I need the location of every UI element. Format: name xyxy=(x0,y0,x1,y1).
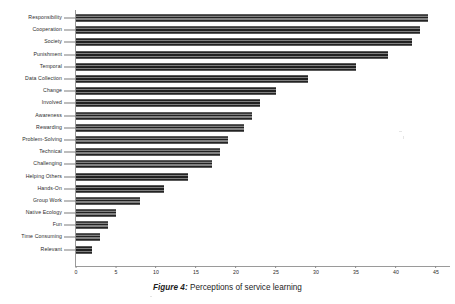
category-label: Challenging xyxy=(33,162,62,167)
category-label: Fun xyxy=(53,223,62,228)
category-label: Problem-Solving xyxy=(22,137,62,142)
bar-row: Group Work xyxy=(76,195,436,207)
category-tick-mark xyxy=(64,237,76,238)
category-tick-mark xyxy=(64,188,76,189)
category-label: Native Ecology xyxy=(26,210,62,215)
bar xyxy=(76,197,140,204)
tick-mark xyxy=(236,266,237,268)
category-label: Helping Others xyxy=(26,174,62,179)
category-tick-mark xyxy=(64,164,76,165)
value-axis-tick: 5 xyxy=(115,266,118,275)
value-axis-tick: 25 xyxy=(273,266,279,275)
bar-row: Fun xyxy=(76,219,436,231)
figure-caption: Figure 4: Perceptions of service learnin… xyxy=(0,283,455,292)
tick-label: 40 xyxy=(393,270,399,275)
bar xyxy=(76,234,100,241)
bar xyxy=(76,222,108,229)
bar xyxy=(76,246,92,253)
value-axis-tick: 10 xyxy=(153,266,159,275)
tick-mark xyxy=(196,266,197,268)
value-axis-tick: 30 xyxy=(313,266,319,275)
category-label: Cooperation xyxy=(32,28,62,33)
bar-row: Native Ecology xyxy=(76,207,436,219)
chart-plot-area: ResponsibilityCooperationSocietyPunishme… xyxy=(0,0,455,270)
bar xyxy=(76,136,228,143)
value-axis-tick: 45 xyxy=(433,266,439,275)
bar xyxy=(76,112,252,119)
tick-mark xyxy=(115,266,116,268)
bar xyxy=(76,210,116,217)
scan-speckle xyxy=(399,131,402,132)
scan-speckle xyxy=(150,296,152,297)
bar-row: Helping Others xyxy=(76,170,436,182)
category-tick-mark xyxy=(64,213,76,214)
figure-container: ResponsibilityCooperationSocietyPunishme… xyxy=(0,0,455,304)
bar xyxy=(76,63,356,70)
category-tick-mark xyxy=(64,249,76,250)
bar-row: Hands-On xyxy=(76,183,436,195)
bar xyxy=(76,149,220,156)
tick-label: 10 xyxy=(153,270,159,275)
bar-row: Punishment xyxy=(76,49,436,61)
category-tick-mark xyxy=(64,176,76,177)
bar xyxy=(76,124,244,131)
tick-mark xyxy=(316,266,317,268)
bar-row: Problem-Solving xyxy=(76,134,436,146)
value-axis-tick: 40 xyxy=(393,266,399,275)
tick-mark xyxy=(75,266,76,268)
category-tick-mark xyxy=(64,42,76,43)
tick-mark xyxy=(156,266,157,268)
category-tick-mark xyxy=(64,91,76,92)
category-tick-mark xyxy=(64,66,76,67)
value-axis-tick: 20 xyxy=(233,266,239,275)
category-label: Responsibility xyxy=(28,15,62,20)
category-tick-mark xyxy=(64,115,76,116)
figure-caption-prefix: Figure 4: xyxy=(153,283,188,292)
tick-mark xyxy=(436,266,437,268)
category-label: Punishment xyxy=(33,52,62,57)
value-axis-tick: 0 xyxy=(75,266,78,275)
tick-label: 5 xyxy=(115,270,118,275)
bar-row: Responsibility xyxy=(76,12,436,24)
bar-row: Time Consuming xyxy=(76,231,436,243)
tick-label: 30 xyxy=(313,270,319,275)
category-tick-mark xyxy=(64,225,76,226)
value-axis-tick: 15 xyxy=(193,266,199,275)
bar xyxy=(76,51,388,58)
bar-row: Temporal xyxy=(76,61,436,73)
category-label: Technical xyxy=(39,150,62,155)
bar-row: Involved xyxy=(76,97,436,109)
tick-mark xyxy=(396,266,397,268)
category-label: Change xyxy=(43,89,62,94)
bar xyxy=(76,27,420,34)
figure-caption-text: Perceptions of service learning xyxy=(190,283,302,292)
bar xyxy=(76,39,412,46)
tick-label: 25 xyxy=(273,270,279,275)
bar xyxy=(76,76,308,83)
category-label: Society xyxy=(44,40,62,45)
category-tick-mark xyxy=(64,152,76,153)
bar-row: Cooperation xyxy=(76,24,436,36)
category-label: Hands-On xyxy=(37,186,62,191)
tick-label: 35 xyxy=(353,270,359,275)
bar-row: Challenging xyxy=(76,158,436,170)
bar-row: Relevant xyxy=(76,244,436,256)
category-label: Data Collection xyxy=(25,76,62,81)
category-label: Rewarding xyxy=(36,125,62,130)
bar xyxy=(76,185,164,192)
tick-mark xyxy=(356,266,357,268)
tick-label: 45 xyxy=(433,270,439,275)
bar xyxy=(76,173,188,180)
tick-label: 20 xyxy=(233,270,239,275)
category-label: Temporal xyxy=(40,64,62,69)
category-tick-mark xyxy=(64,18,76,19)
tick-mark xyxy=(276,266,277,268)
value-axis-ticks: 051015202530354045 xyxy=(76,266,436,280)
bar-row: Awareness xyxy=(76,110,436,122)
bar-row: Data Collection xyxy=(76,73,436,85)
category-label: Relevant xyxy=(41,247,62,252)
bar-series: ResponsibilityCooperationSocietyPunishme… xyxy=(76,12,436,264)
bar xyxy=(76,88,276,95)
bar-row: Rewarding xyxy=(76,122,436,134)
category-label: Awareness xyxy=(35,113,62,118)
